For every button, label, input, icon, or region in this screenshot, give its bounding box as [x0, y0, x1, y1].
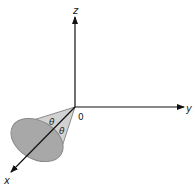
y-axis-label: y [185, 103, 193, 114]
origin-label: 0 [78, 112, 84, 122]
z-axis-label: z [72, 5, 79, 16]
x-axis-label: x [3, 175, 10, 186]
theta-label-lower: θ [59, 126, 65, 136]
cone-diagram: z y x 0 θ θ [0, 0, 195, 187]
theta-label-upper: θ [49, 117, 55, 127]
diagram-canvas: z y x 0 θ θ [0, 0, 195, 187]
